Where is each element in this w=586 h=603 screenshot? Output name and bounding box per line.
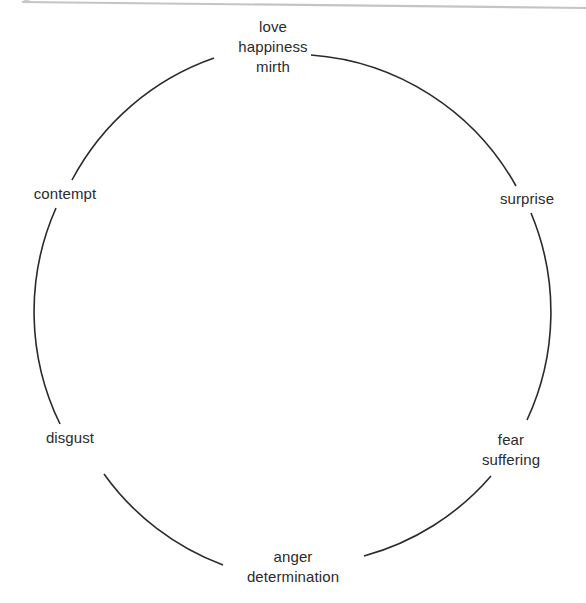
label-fear-suffering: fear suffering bbox=[482, 430, 540, 470]
arc-disgust-to-contempt bbox=[34, 208, 60, 424]
arc-contempt-to-top bbox=[72, 58, 214, 180]
label-line-disgust: disgust bbox=[46, 428, 94, 448]
label-line-anger: anger bbox=[247, 547, 339, 567]
label-love-happiness-mirth: love happiness mirth bbox=[238, 17, 307, 77]
label-line-determination: determination bbox=[247, 567, 339, 587]
label-line-fear: fear bbox=[482, 430, 540, 450]
arc-surprise-to-fear bbox=[527, 213, 551, 420]
label-line-mirth: mirth bbox=[238, 57, 307, 77]
arc-fear-to-anger bbox=[364, 476, 491, 556]
label-line-contempt: contempt bbox=[34, 184, 97, 204]
label-contempt: contempt bbox=[34, 184, 97, 204]
label-surprise: surprise bbox=[500, 189, 554, 209]
arc-anger-to-disgust bbox=[104, 474, 223, 565]
label-line-suffering: suffering bbox=[482, 450, 540, 470]
label-line-love: love bbox=[238, 17, 307, 37]
emotion-circle-diagram bbox=[0, 0, 586, 603]
label-disgust: disgust bbox=[46, 428, 94, 448]
label-anger-determination: anger determination bbox=[247, 547, 339, 587]
label-line-happiness: happiness bbox=[238, 37, 307, 57]
label-line-surprise: surprise bbox=[500, 189, 554, 209]
arc-top-to-surprise bbox=[311, 55, 516, 186]
